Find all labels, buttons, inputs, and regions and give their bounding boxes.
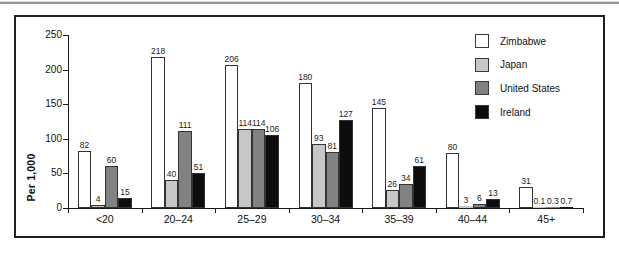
bar-zimbabwe: [225, 65, 239, 208]
bar-united-states: [399, 184, 413, 208]
y-tick-label: 250: [16, 29, 62, 40]
bar-ireland: [265, 135, 279, 208]
bar-japan: [459, 206, 473, 208]
bar-value-label: 60: [96, 155, 128, 165]
legend-swatch-united-states: [475, 81, 489, 95]
bar-value-label: 206: [216, 54, 248, 64]
category-label: <20: [68, 213, 142, 225]
bar-value-label: 61: [403, 155, 435, 165]
y-axis-line: [68, 35, 69, 213]
bar-value-label: 80: [436, 142, 468, 152]
bar-ireland: [192, 173, 206, 208]
y-tick-label: 50: [16, 167, 62, 178]
y-tick: [63, 104, 68, 105]
bar-value-label: 31: [510, 176, 542, 186]
bar-zimbabwe: [151, 57, 165, 208]
bar-ireland: [413, 166, 427, 208]
bar-zimbabwe: [299, 83, 313, 208]
y-tick: [63, 35, 68, 36]
y-tick-label: 150: [16, 98, 62, 109]
legend-label-united-states: United States: [500, 83, 560, 94]
x-tick: [583, 208, 584, 213]
bar-japan: [91, 205, 105, 208]
bar-value-label: 51: [183, 162, 215, 172]
category-label: 30–34: [289, 213, 363, 225]
legend-swatch-zimbabwe: [475, 34, 489, 48]
page-top-rule: [0, 1, 619, 4]
bar-japan: [165, 180, 179, 208]
legend-label-zimbabwe: Zimbabwe: [500, 36, 546, 47]
bar-value-label: 218: [142, 46, 174, 56]
y-tick: [63, 173, 68, 174]
category-label: 40–44: [436, 213, 510, 225]
bar-value-label: 106: [256, 124, 288, 134]
bar-value-label: 180: [289, 72, 321, 82]
chart-frame: Per 1,000 050100150200250<2020–2425–2930…: [14, 15, 605, 238]
bar-united-states: [326, 152, 340, 208]
category-label: 25–29: [215, 213, 289, 225]
legend-swatch-japan: [475, 58, 489, 72]
bar-ireland: [339, 120, 353, 208]
bar-value-label: 13: [477, 188, 509, 198]
bar-value-label: 145: [363, 97, 395, 107]
bar-united-states: [546, 207, 560, 208]
bar-value-label: 111: [169, 120, 201, 130]
y-tick-label: 0: [16, 202, 62, 213]
bar-value-label: 0.7: [550, 196, 582, 206]
plot-area: Per 1,000 050100150200250<2020–2425–2930…: [16, 17, 603, 236]
page: Per 1,000 050100150200250<2020–2425–2930…: [0, 0, 619, 255]
bar-value-label: 82: [69, 140, 101, 150]
y-tick-label: 200: [16, 64, 62, 75]
y-tick-label: 100: [16, 133, 62, 144]
category-label: 35–39: [362, 213, 436, 225]
bar-japan: [238, 129, 252, 208]
category-label: 20–24: [142, 213, 216, 225]
bar-japan: [312, 144, 326, 208]
bar-united-states: [473, 204, 487, 208]
bar-ireland: [560, 207, 574, 208]
y-tick: [63, 70, 68, 71]
category-label: 45+: [509, 213, 583, 225]
bar-united-states: [252, 129, 266, 208]
y-tick: [63, 139, 68, 140]
legend-swatch-ireland: [475, 105, 489, 119]
bar-japan: [533, 207, 547, 208]
bar-japan: [386, 190, 400, 208]
bar-value-label: 127: [330, 109, 362, 119]
legend-label-ireland: Ireland: [500, 107, 531, 118]
bar-zimbabwe: [372, 108, 386, 208]
bar-ireland: [118, 198, 132, 208]
bar-ireland: [486, 199, 500, 208]
bar-value-label: 15: [109, 187, 141, 197]
legend-label-japan: Japan: [500, 59, 527, 70]
